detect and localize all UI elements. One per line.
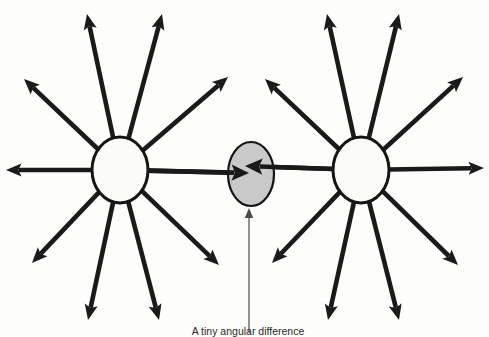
- caption-leader-group: [245, 208, 253, 333]
- ray-right-nw: [265, 79, 340, 150]
- ray-left-sse: [128, 201, 162, 320]
- ray-right-sw: [272, 191, 341, 263]
- ray-right-sse: [369, 201, 402, 320]
- ray-right-nw-shaft: [274, 88, 340, 150]
- ray-left-e-overlay: [147, 164, 249, 180]
- ray-left-nw: [24, 79, 99, 150]
- ray-right-sse-shaft: [369, 201, 396, 308]
- left-node-ellipse: [92, 137, 148, 203]
- ray-left-sw-shaft: [41, 191, 100, 254]
- ray-right-e: [388, 162, 484, 175]
- ray-right-ne-shaft: [382, 85, 453, 150]
- ray-left-ne-shaft: [142, 85, 219, 151]
- ray-right-nne-shaft: [368, 26, 396, 139]
- right-node-ellipse: [333, 137, 389, 203]
- diagram-svg: A tiny angular difference: [0, 0, 489, 337]
- ray-right-nnw-shaft: [330, 26, 355, 139]
- ray-left-ssw-shaft: [91, 201, 114, 308]
- ray-right-se-shaft: [382, 190, 449, 256]
- ray-right-nne: [368, 14, 401, 139]
- ray-left-nne-shaft: [128, 26, 159, 139]
- ray-left-ssw: [85, 201, 114, 320]
- ray-left-se-shaft: [141, 190, 210, 256]
- ray-right-ssw-shaft: [331, 201, 355, 308]
- ray-left-sw: [32, 191, 100, 263]
- ray-right-w-overlay: [245, 158, 334, 174]
- ray-left-w: [6, 163, 93, 176]
- ray-left-nnw: [84, 14, 114, 139]
- caption-leader-arrowhead: [245, 208, 253, 218]
- diagram-canvas: A tiny angular difference: [0, 0, 489, 337]
- ray-left-e-shaft-overlay: [147, 171, 235, 173]
- ray-right-sw-shaft: [281, 191, 341, 254]
- ray-right-ssw: [325, 201, 354, 320]
- center-target-group: [147, 142, 334, 206]
- ray-left-se: [141, 190, 219, 265]
- caption-label: A tiny angular difference: [192, 325, 305, 337]
- ray-left-ne: [142, 77, 228, 151]
- ray-right-ne: [382, 77, 463, 150]
- ray-left-sse-shaft: [128, 201, 156, 308]
- ray-right-e-shaft: [388, 168, 472, 169]
- ray-right-nnw: [324, 14, 354, 139]
- ray-left-nne: [128, 14, 164, 140]
- ray-right-w-shaft-overlay: [259, 166, 334, 169]
- ray-right-se: [382, 190, 458, 265]
- ray-left-nnw-shaft: [90, 26, 114, 139]
- ray-left-nw-shaft: [33, 88, 99, 150]
